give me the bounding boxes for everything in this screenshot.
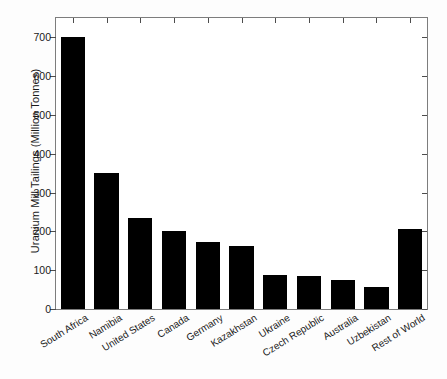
y-axis-tick-label: 0 <box>45 303 51 315</box>
bar <box>229 246 253 309</box>
chart-figure: Uranium Mill Tailings (Million Tonnes) 0… <box>0 0 447 379</box>
x-axis-tick-label: South Africa <box>38 312 90 350</box>
bar <box>398 229 422 309</box>
bar <box>297 276 321 309</box>
y-axis-tick-label: 700 <box>33 31 51 43</box>
x-axis-labels: South AfricaNamibiaUnited StatesCanadaGe… <box>55 312 428 379</box>
bar <box>196 242 220 309</box>
bar <box>162 231 186 309</box>
bar <box>128 218 152 309</box>
y-axis-tick-label: 400 <box>33 148 51 160</box>
y-axis-tick-label: 300 <box>33 187 51 199</box>
y-axis-tick-mark-right <box>422 309 427 310</box>
y-axis-tick-label: 200 <box>33 225 51 237</box>
y-axis-tick-label: 500 <box>33 109 51 121</box>
bar <box>94 173 118 309</box>
x-axis-tick-label: Czech Republic <box>261 312 326 358</box>
y-axis-tick-label: 100 <box>33 264 51 276</box>
bar <box>364 287 388 309</box>
bar <box>331 280 355 309</box>
bar <box>61 37 85 309</box>
y-axis-tick-label: 600 <box>33 70 51 82</box>
plot-area: 0100200300400500600700 <box>55 17 428 310</box>
bar <box>263 275 287 309</box>
bar-series <box>56 18 427 309</box>
